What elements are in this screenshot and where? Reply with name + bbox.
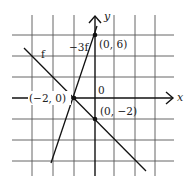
line-neg-3f-label: −3f [69,41,89,53]
coordinate-diagram: x y 0 f −3f (−2, 0) (0, 6) (0, −2) [0,0,190,183]
point-neg2-0-label: (−2, 0) [29,92,66,104]
point-neg2-0 [72,96,77,101]
line-f-label: f [41,48,46,60]
point-0-neg2 [93,117,98,122]
y-axis-label: y [103,10,111,23]
point-0-6 [93,33,98,38]
origin-label: 0 [98,84,105,96]
point-0-6-label: (0, 6) [99,38,127,50]
x-axis-label: x [177,91,184,104]
point-0-neg2-label: (0, −2) [100,105,137,117]
